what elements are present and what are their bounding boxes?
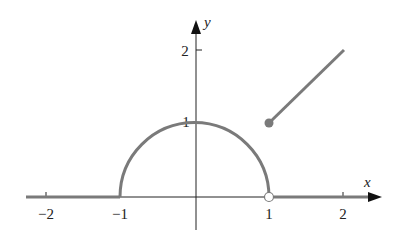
- closed-point: [265, 119, 274, 128]
- x-tick-label-m1: −1: [112, 206, 128, 222]
- x-axis-label: x: [363, 174, 371, 190]
- x-tick-label-2: 2: [339, 206, 347, 222]
- open-point: [265, 193, 274, 202]
- x-axis-arrow-icon: [368, 192, 382, 202]
- diagonal-line-segment: [269, 50, 344, 123]
- y-tick-label-2: 2: [181, 43, 189, 59]
- x-tick-label-1: 1: [265, 206, 273, 222]
- piecewise-function-graph: −2 −1 1 2 1 2 y x: [0, 0, 398, 239]
- x-tick-label-m2: −2: [38, 206, 54, 222]
- y-axis-arrow-icon: [191, 20, 201, 34]
- y-axis-label: y: [202, 14, 211, 30]
- semicircle-curve: [120, 122, 269, 197]
